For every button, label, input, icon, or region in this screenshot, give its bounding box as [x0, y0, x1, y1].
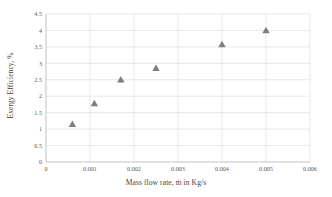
data-point-marker	[152, 65, 159, 71]
x-axis-tick-label: 0.004	[215, 165, 229, 172]
y-axis-tick-label: 1	[39, 125, 42, 132]
y-axis-tick-label: 0.5	[34, 142, 42, 149]
y-axis-tick-label: 4.5	[34, 10, 42, 17]
x-axis-tick-label: 0.003	[171, 165, 185, 172]
x-axis-tick-labels: 00.0010.0020.0030.0040.0050.006	[44, 165, 317, 172]
x-axis-title: Mass flow rate, ṁ in Kg/s	[0, 178, 332, 187]
vertical-gridlines	[46, 14, 310, 162]
data-point-marker	[91, 100, 98, 106]
data-point-markers	[69, 27, 270, 127]
y-axis-tick-label: 2.5	[34, 76, 42, 83]
x-axis-tick-label: 0.001	[83, 165, 97, 172]
y-axis-tick-label: 2	[39, 92, 42, 99]
y-axis-tick-label: 4	[39, 27, 42, 34]
y-axis-tick-label: 3	[39, 60, 42, 67]
x-axis-tick-label: 0.005	[259, 165, 273, 172]
data-point-marker	[218, 41, 225, 47]
y-axis-title: Exergy Efficiency, %	[6, 52, 15, 118]
x-axis-tick-label: 0.002	[127, 165, 141, 172]
y-axis-tick-label: 0	[39, 158, 42, 165]
exergy-efficiency-scatter-chart: 00.511.522.533.544.5 00.0010.0020.0030.0…	[0, 0, 332, 197]
plot-area: 00.511.522.533.544.5 00.0010.0020.0030.0…	[0, 0, 332, 197]
x-axis-tick-label: 0	[44, 165, 47, 172]
y-axis-tick-label: 1.5	[34, 109, 42, 116]
y-axis-title-container: Exergy Efficiency, %	[0, 0, 20, 170]
data-point-marker	[117, 76, 124, 82]
y-axis-tick-labels: 00.511.522.533.544.5	[34, 10, 42, 165]
x-axis-tick-label: 0.006	[303, 165, 317, 172]
data-point-marker	[262, 27, 269, 33]
y-axis-tick-label: 3.5	[34, 43, 42, 50]
data-point-marker	[69, 120, 76, 126]
